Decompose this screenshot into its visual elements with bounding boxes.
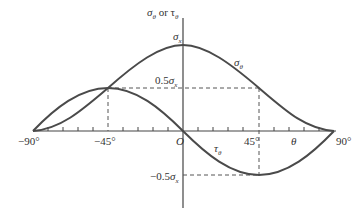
- half-sigma-label: 0.5σx: [155, 74, 178, 89]
- tau-curve-label: τθ: [214, 142, 222, 157]
- tick-label-neg45: −45°: [94, 135, 116, 147]
- y-axis-label: σθ or τθ: [147, 6, 179, 21]
- tick-label-pos90: 90°: [336, 135, 351, 147]
- stress-transformation-diagram: σθ or τθ σx 0.5σx −0.5σx σθ τθ −90° −45°…: [0, 0, 363, 220]
- peak-label: σx: [173, 30, 182, 45]
- svg-text:σθ or τθ: σθ or τθ: [147, 6, 179, 21]
- tick-label-neg90: −90°: [18, 135, 40, 147]
- neg-half-sigma-label: −0.5σx: [150, 170, 179, 185]
- tick-label-pos45: 45°: [244, 135, 259, 147]
- origin-label: O: [176, 135, 184, 147]
- x-axis-label: θ: [291, 135, 297, 147]
